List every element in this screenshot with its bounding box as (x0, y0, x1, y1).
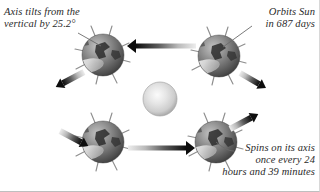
arrow-lower-right-diagonal (227, 109, 260, 134)
annotation-axis-tilt: Axis tilts from the vertical by 25.2° (4, 6, 80, 30)
arrow-bottom-rightward (128, 141, 195, 155)
annotation-orbit-period: Orbits Sun in 687 days (265, 6, 315, 30)
sun-body (143, 82, 177, 116)
diagram-canvas: Axis tilts from the vertical by 25.2° Or… (0, 0, 320, 192)
arrow-upper-right-diagonal (237, 68, 268, 93)
annotation-rotation-period: Spins on its axis once every 24 hours an… (222, 142, 315, 179)
arrow-top-leftward (127, 39, 196, 53)
arrow-upper-left-diagonal (53, 67, 86, 92)
planet-mars-top-right (187, 27, 246, 85)
